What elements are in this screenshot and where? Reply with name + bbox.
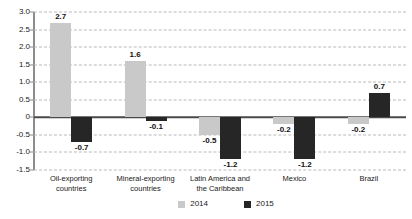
bar-group: -0.20.7	[332, 12, 406, 170]
bar-value-label: -1.2	[287, 161, 322, 169]
chart-legend: 20142015	[0, 200, 412, 208]
y-axis-tick-mark	[29, 12, 34, 13]
x-axis-category-label: Mexico	[257, 174, 331, 184]
y-axis-tick-mark	[29, 47, 34, 48]
bar-value-label: -0.2	[341, 126, 376, 134]
legend-label: 2014	[190, 200, 208, 208]
x-axis-category-label: Oil-exporting countries	[34, 174, 108, 193]
y-axis-tick-mark	[29, 170, 34, 171]
bar-value-label: -0.7	[64, 144, 99, 152]
legend-label: 2015	[256, 200, 274, 208]
bar-group: 2.7-0.7	[34, 12, 108, 170]
bar-value-label: -1.2	[213, 161, 248, 169]
bar-2015[interactable]	[294, 117, 315, 159]
bar-2015[interactable]	[71, 117, 92, 142]
bar-2014[interactable]	[199, 117, 220, 135]
bar-group: 1.6-0.1	[108, 12, 182, 170]
y-axis-tick-label: -0.5	[16, 131, 30, 139]
bar-2014[interactable]	[273, 117, 294, 124]
bar-2014[interactable]	[50, 23, 71, 118]
bar-value-label: 2.7	[43, 13, 78, 21]
x-axis-category-label: Latin America and the Caribbean	[183, 174, 257, 193]
bar-2015[interactable]	[369, 93, 390, 118]
bar-2014[interactable]	[125, 61, 146, 117]
bar-value-label: 0.7	[362, 83, 397, 91]
y-axis-tick-mark	[29, 99, 34, 100]
y-axis-tick-mark	[29, 134, 34, 135]
bar-groups: 2.7-0.71.6-0.1-0.5-1.2-0.2-1.2-0.20.7	[34, 12, 406, 170]
x-axis-category-label: Brazil	[332, 174, 406, 184]
x-axis-category-labels: Oil-exporting countriesMineral-exporting…	[34, 174, 406, 196]
legend-swatch-icon	[244, 201, 251, 208]
legend-item[interactable]: 2015	[244, 200, 274, 208]
bar-value-label: 1.6	[118, 51, 153, 59]
bar-value-label: -0.1	[139, 123, 174, 131]
x-axis-category-label: Mineral-exporting countries	[108, 174, 182, 193]
y-axis-tick-mark	[29, 29, 34, 30]
y-axis-tick-mark	[29, 152, 34, 153]
bar-2014[interactable]	[348, 117, 369, 124]
bar-2015[interactable]	[146, 117, 167, 121]
y-axis-tick-mark	[29, 117, 34, 118]
legend-swatch-icon	[178, 201, 185, 208]
bar-chart: 3.02.52.01.51.00.50-0.5-1.0-1.5 2.7-0.71…	[0, 0, 412, 219]
y-axis-tick-mark	[29, 64, 34, 65]
plot-area: 2.7-0.71.6-0.1-0.5-1.2-0.2-1.2-0.20.7	[34, 12, 406, 170]
y-axis-tick-label: -1.0	[16, 148, 30, 156]
bar-group: -0.5-1.2	[183, 12, 257, 170]
bar-group: -0.2-1.2	[257, 12, 331, 170]
y-axis-tick-label: -1.5	[16, 166, 30, 174]
legend-item[interactable]: 2014	[178, 200, 208, 208]
bar-2015[interactable]	[220, 117, 241, 159]
y-axis-tick-labels: 3.02.52.01.51.00.50-0.5-1.0-1.5	[0, 12, 30, 170]
y-axis-tick-mark	[29, 82, 34, 83]
